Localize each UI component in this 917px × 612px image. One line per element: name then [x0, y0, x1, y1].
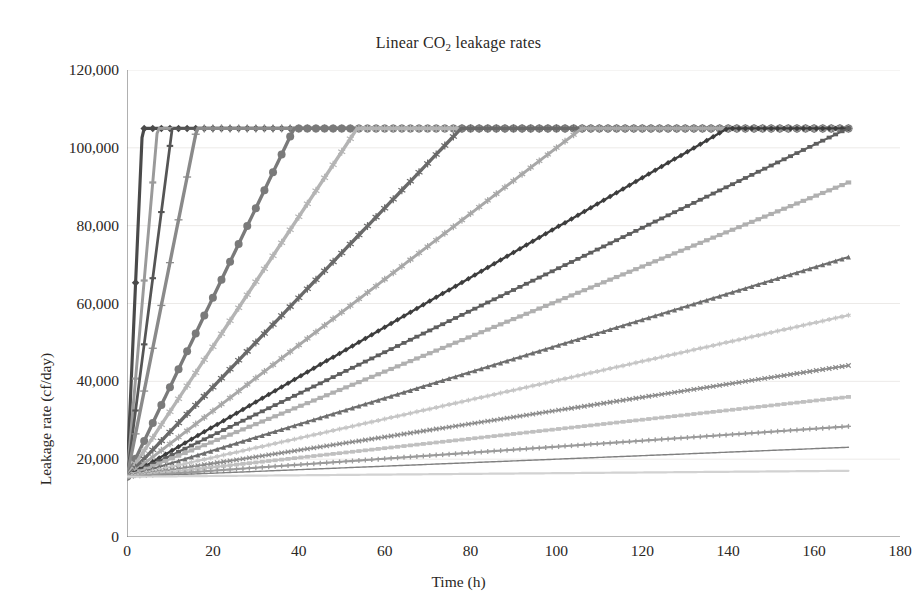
x-tick-label: 180 [865, 543, 917, 559]
y-axis-label: Leakage rate (cf/day) [37, 229, 55, 609]
plot-area [127, 70, 900, 537]
series-rate-13 [127, 313, 851, 479]
chart-title: Linear CO2 leakage rates [0, 34, 917, 53]
y-tick-label: 80,000 [23, 218, 119, 234]
y-tick-label: 60,000 [23, 296, 119, 312]
y-tick-label: 100,000 [23, 140, 119, 156]
x-tick-label: 0 [92, 543, 162, 559]
x-tick-label: 140 [693, 543, 763, 559]
series-rate-10 [127, 127, 851, 479]
series-rate-15 [127, 395, 851, 479]
y-tick-label: 120,000 [23, 62, 119, 78]
x-tick-label: 20 [178, 543, 248, 559]
x-tick-label: 160 [779, 543, 849, 559]
series-rate-12 [127, 255, 851, 480]
x-tick-label: 40 [264, 543, 334, 559]
chart-figure: Linear CO2 leakage rates Leakage rate (c… [0, 0, 917, 612]
plot-svg [127, 70, 900, 537]
x-tick-label: 60 [350, 543, 420, 559]
x-tick-label: 100 [521, 543, 591, 559]
x-tick-label: 80 [436, 543, 506, 559]
x-axis-label: Time (h) [0, 573, 917, 591]
y-tick-label: 40,000 [23, 373, 119, 389]
x-tick-label: 120 [607, 543, 677, 559]
y-tick-label: 20,000 [23, 451, 119, 467]
